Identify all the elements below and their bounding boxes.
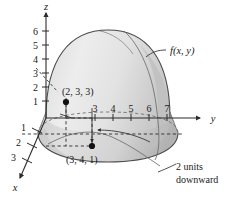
y-tick-label-3: 3 — [93, 103, 98, 114]
x-tick-label-3: 3 — [11, 152, 16, 163]
point-label-2-3-3: (2, 3, 3) — [62, 86, 94, 98]
z-tick-label-2: 2 — [33, 82, 38, 93]
note-label-leader — [158, 164, 176, 172]
y-tick-label-7: 7 — [165, 103, 170, 114]
y-tick-label-4: 4 — [111, 103, 116, 114]
surface-diagram-figure: 6 5 4 3 2 1 z 3 4 5 6 7 y 1 2 3 x (2, 3,… — [0, 0, 237, 197]
y-tick-label-5: 5 — [129, 103, 134, 114]
z-tick-label-4: 4 — [33, 54, 38, 65]
z-tick-label-3: 3 — [33, 68, 38, 79]
x-tick-label-1: 1 — [21, 122, 26, 133]
note-label-line1: 2 units — [176, 161, 203, 172]
y-tick-label-6: 6 — [147, 103, 152, 114]
function-label: f(x, y) — [170, 45, 195, 57]
note-label-line2: downward — [176, 174, 218, 185]
z-tick-label-6: 6 — [33, 26, 38, 37]
x-tick-label-2: 2 — [16, 137, 21, 148]
z-tick-label-5: 5 — [33, 40, 38, 51]
z-axis-name: z — [43, 1, 48, 12]
point-label-3-4-1: (3, 4, 1) — [66, 154, 98, 166]
diagram-canvas: 6 5 4 3 2 1 z 3 4 5 6 7 y 1 2 3 x (2, 3,… — [0, 0, 237, 197]
y-axis-name: y — [210, 113, 216, 124]
x-axis-name: x — [12, 182, 18, 193]
x-tick-2 — [27, 143, 37, 148]
z-tick-label-1: 1 — [33, 96, 38, 107]
point-3-4-1-marker — [89, 143, 95, 149]
point-2-3-3-marker — [63, 99, 69, 105]
